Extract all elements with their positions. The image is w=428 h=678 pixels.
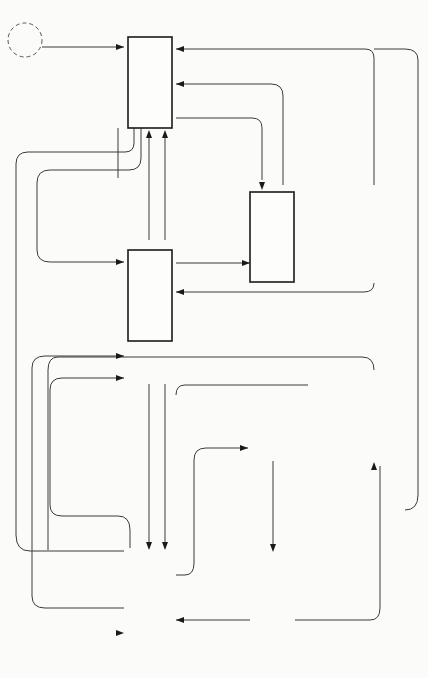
flow-weathering	[176, 49, 374, 185]
reservoir-soil[interactable]	[128, 37, 172, 128]
arrow-to-soil-dry	[146, 130, 152, 138]
arrow-to-soil-weathering	[176, 46, 184, 52]
flow-sedimentation	[295, 466, 380, 620]
flow-biogenic-ocean	[32, 356, 124, 608]
arrow-to-marine-plants	[240, 445, 248, 451]
flow-river-runoff	[16, 128, 134, 551]
arrow-to-atmosphere-volcanoes	[176, 289, 184, 295]
arrow-to-atmosphere-dry	[116, 259, 124, 265]
reservoir-atmosphere-box[interactable]	[128, 250, 172, 341]
arrow-to-soil-decay	[176, 81, 184, 87]
flow-volcanoes	[176, 283, 374, 292]
arrow-to-soil-wet	[162, 130, 168, 138]
nitrogen-cycle-diagram	[0, 0, 428, 678]
flow-precipitation-top	[176, 385, 308, 395]
arrow-to-dead-organic	[270, 544, 276, 552]
arrow-to-ocean-runoff	[116, 630, 124, 636]
flow-dry-deposition-loop	[37, 128, 141, 262]
flow-combustion	[48, 357, 374, 550]
arrow-to-sediments	[371, 462, 377, 470]
flow-sediments-loop	[374, 49, 418, 510]
arrow-to-ocean-gaseous	[146, 542, 152, 550]
arrow-to-ocean-upwelling	[176, 617, 184, 623]
flow-decay-land	[176, 84, 283, 185]
flow-assimilation-100	[176, 448, 248, 575]
arrow-to-ocean-precip	[162, 542, 168, 550]
external-source-circle	[8, 23, 42, 57]
flow-lines	[8, 23, 418, 620]
flow-sea-spray	[50, 378, 130, 530]
arrow-to-atmosphere-biogenic	[116, 353, 124, 359]
flow-assimilation-65	[176, 118, 262, 180]
arrow-to-atmosphere-seaspray	[116, 375, 124, 381]
reservoir-land-plants-visible[interactable]	[250, 192, 294, 282]
arrow-to-land-plants-35	[242, 260, 250, 266]
arrow-to-land-plants	[259, 182, 265, 190]
arrow-to-soil-fertilizers	[116, 44, 124, 50]
